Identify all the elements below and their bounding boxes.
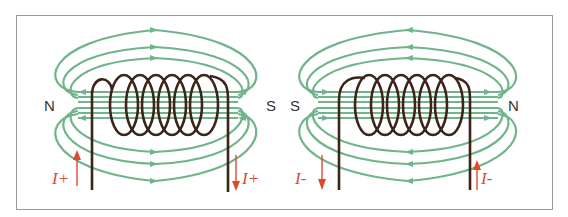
right-field-lines	[299, 30, 516, 181]
left-solenoid-panel	[55, 27, 256, 192]
right-panel-current-left-label: I-	[294, 169, 307, 188]
left-panel-current-right-label: I+	[241, 169, 259, 188]
right-panel-left-pole: S	[290, 97, 300, 114]
left-field-arrows	[78, 27, 246, 184]
left-panel-right-pole: S	[266, 97, 276, 114]
solenoid-diagram: N S I+ I+ S N I- I-	[0, 0, 568, 217]
right-panel-current-right-label: I-	[480, 169, 493, 188]
left-panel-left-pole: N	[44, 97, 55, 114]
left-field-lines	[55, 30, 256, 181]
right-panel-right-pole: N	[508, 97, 519, 114]
right-field-arrows	[322, 27, 492, 184]
right-solenoid-panel	[299, 27, 516, 190]
left-panel-current-left-label: I+	[51, 169, 69, 188]
